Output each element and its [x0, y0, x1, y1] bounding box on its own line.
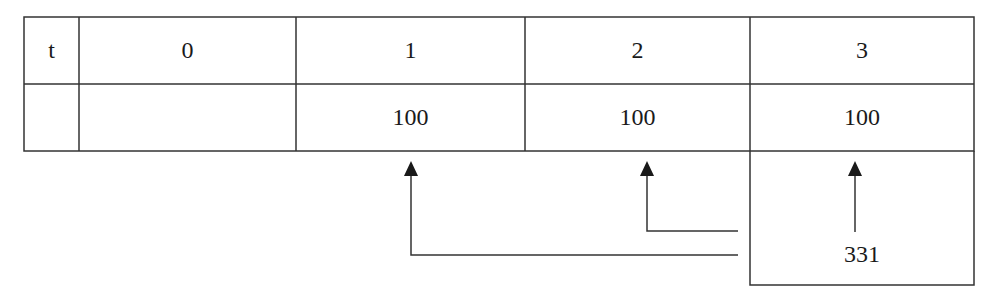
period-2-value: 100 — [525, 84, 750, 151]
period-0-value — [79, 84, 296, 151]
period-1-header: 1 — [296, 17, 525, 84]
period-1-value: 100 — [296, 84, 525, 151]
arrow-to-period-1 — [411, 176, 738, 255]
value-row-label — [24, 84, 79, 151]
header-label-t: t — [24, 17, 79, 84]
period-3-value: 100 — [750, 84, 974, 151]
period-3-header: 3 — [750, 17, 974, 84]
arrowhead-icon — [404, 161, 418, 176]
arrow-to-period-2 — [647, 176, 738, 231]
arrowhead-icon — [848, 161, 862, 176]
period-2-header: 2 — [525, 17, 750, 84]
period-0-header: 0 — [79, 17, 296, 84]
future-value: 331 — [750, 236, 974, 272]
arrowhead-icon — [640, 161, 654, 176]
